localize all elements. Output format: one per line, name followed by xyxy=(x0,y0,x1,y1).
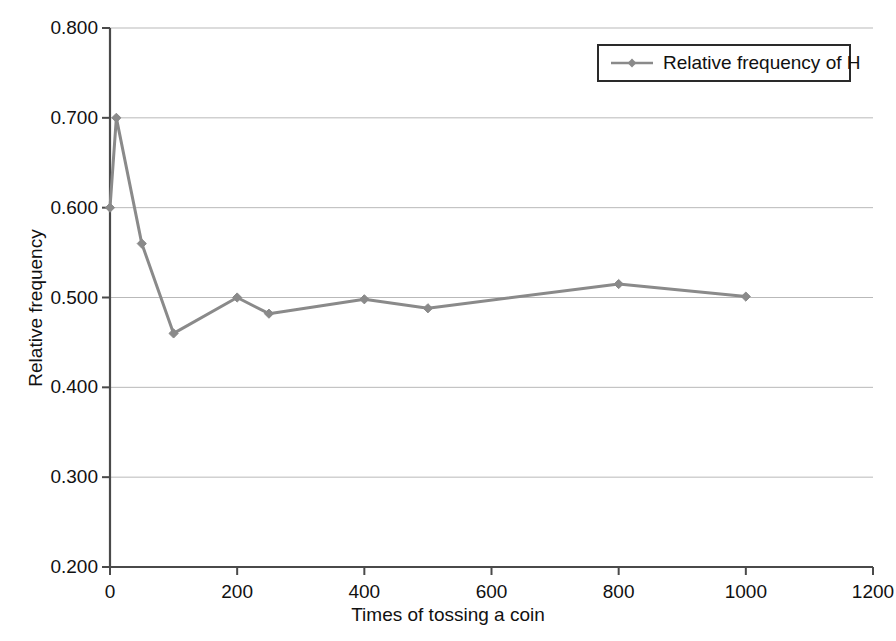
data-point-marker xyxy=(360,295,369,304)
x-axis-tick-label: 600 xyxy=(447,581,537,603)
x-axis-tick-label: 0 xyxy=(65,581,155,603)
legend-diamond xyxy=(628,59,637,68)
legend-item-label: Relative frequency of H xyxy=(663,52,861,74)
data-point-marker xyxy=(614,279,623,288)
plot-area xyxy=(0,0,896,641)
x-axis-title: Times of tossing a coin xyxy=(0,604,896,626)
data-point-marker xyxy=(741,292,750,301)
x-axis-tick-label: 800 xyxy=(574,581,664,603)
data-point-marker xyxy=(105,203,114,212)
y-axis-tick-label: 0.700 xyxy=(14,107,98,129)
y-axis-tick-label: 0.800 xyxy=(14,17,98,39)
x-axis-tick-label: 1200 xyxy=(828,581,896,603)
y-axis-tick-label: 0.300 xyxy=(14,466,98,488)
legend: Relative frequency of H xyxy=(597,44,851,82)
series-line-relative-frequency-of-h xyxy=(110,118,746,334)
data-point-marker xyxy=(112,113,121,122)
chart-container: 0.2000.3000.4000.5000.6000.7000.800 0200… xyxy=(0,0,896,641)
x-axis-tick-label: 200 xyxy=(192,581,282,603)
data-point-marker xyxy=(137,239,146,248)
x-axis-tick-label: 1000 xyxy=(701,581,791,603)
data-point-marker xyxy=(423,304,432,313)
y-axis-title: Relative frequency xyxy=(25,188,47,428)
x-axis-tick-label: 400 xyxy=(319,581,409,603)
legend-marker-icon xyxy=(609,56,655,70)
y-axis-tick-label: 0.200 xyxy=(14,556,98,578)
